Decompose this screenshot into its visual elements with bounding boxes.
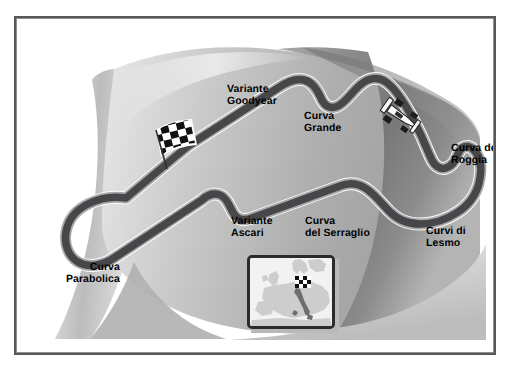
inset-checkered-flag-icon [295,276,312,289]
locator-map-inset [247,255,335,329]
corner-label-curva-del-roggia: Curva del Roggia [451,143,496,166]
map-frame: Variante Goodyear Curva Grande Curva del… [14,16,496,355]
corner-label-curva-parabolica: Curva Parabolica [30,262,120,285]
corner-label-variante-ascari: Variante Ascari [231,216,273,239]
checkered-flag-icon [153,111,203,173]
corner-label-curvi-di-lesmo: Curvi di Lesmo [426,226,466,249]
figure-canvas: Variante Goodyear Curva Grande Curva del… [0,0,509,369]
corner-label-curva-grande: Curva Grande [304,111,341,134]
corner-label-curva-del-serraglio: Curva del Serraglio [305,216,370,239]
europe-map [250,258,332,326]
formula-one-car-icon [374,95,426,139]
inset-map-frame [247,255,335,329]
corner-label-variante-goodyear: Variante Goodyear [227,84,277,107]
